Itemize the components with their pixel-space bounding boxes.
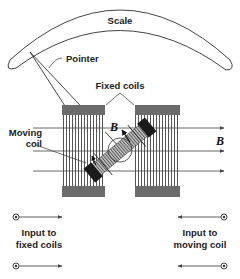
scale-label: Scale xyxy=(108,15,133,26)
input-fixed-coils: Input to fixed coils xyxy=(13,214,62,269)
field-b-label: B xyxy=(215,134,224,148)
fixed-coils-label: Fixed coils xyxy=(95,80,144,91)
moving-coil-label-line2: coil xyxy=(26,138,42,149)
moving-coil-label-line1: Moving xyxy=(9,127,42,138)
scale: Scale xyxy=(8,10,232,70)
input-fixed-label-line1: Input to xyxy=(22,227,57,238)
electrodynamometer-diagram: Scale Pointer Fixed coils B xyxy=(0,0,240,279)
pointer-label: Pointer xyxy=(66,53,99,64)
fixed-coils-callout: Fixed coils xyxy=(95,80,144,105)
input-moving-label-line1: Input to xyxy=(183,227,218,238)
input-fixed-label-line2: fixed coils xyxy=(16,239,62,250)
moving-b-label: B xyxy=(109,120,118,134)
input-moving-coil: Input to moving coil xyxy=(174,214,227,269)
input-moving-label-line2: moving coil xyxy=(174,239,227,250)
